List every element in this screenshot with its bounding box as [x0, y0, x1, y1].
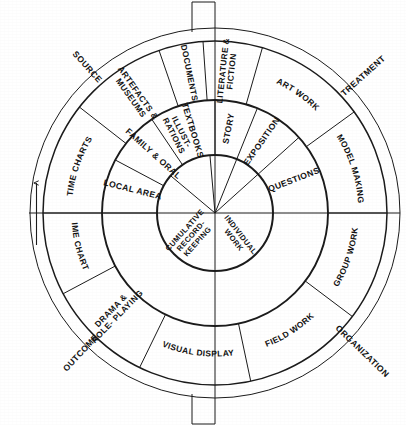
wheel-labels: TIME CHARTSARTEFACTS &MUSEUMSDOCUMENTSLI… [0, 0, 391, 379]
inner-divider-1 [210, 155, 215, 213]
axis-label-organization: ORGANIZATION [334, 323, 392, 379]
divider-literature-fiction [203, 41, 207, 100]
middle-label-exposition: EXPOSITION [241, 115, 282, 167]
inner-label-cumulative-record-keeping: CUMULATIVERECORD-KEEPING [164, 207, 219, 264]
divider-documents [159, 50, 178, 106]
inner-divider-3 [215, 174, 258, 213]
divider-drama-role-playing [140, 315, 166, 368]
wheel-svg: TIME CHARTSARTEFACTS &MUSEUMSDOCUMENTSLI… [0, 0, 406, 425]
outer-label-documents: DOCUMENTS [179, 44, 200, 102]
inner-divider-0 [171, 176, 215, 213]
outer-label-art-work: ART WORK [275, 76, 322, 113]
curriculum-wheel-diagram: TIME CHARTSARTEFACTS &MUSEUMSDOCUMENTSLI… [0, 0, 406, 425]
divider-visual-display [238, 324, 250, 382]
divider-time-charts-lower [63, 266, 115, 294]
inner-divider-2 [215, 159, 237, 213]
outer-label-time-charts-lower: TIME CHARTS [0, 0, 91, 272]
outer-label-literature-fiction: LITERATURE &FICTION [214, 37, 239, 104]
inner-label-individual-work: INDIVIDUALWORK [216, 213, 259, 261]
axis-label-treatment: TREATMENT [339, 53, 388, 98]
middle-label-story: STORY [220, 112, 236, 144]
divider-field-work [305, 281, 352, 317]
outer-label-artefacts-museums: ARTEFACTS &MUSEUMS [109, 64, 161, 126]
middle-label-questions: QUESTIONS [267, 165, 321, 194]
outer-label-field-work: FIELD WORK [264, 310, 316, 348]
outer-label-group-work: GROUP WORK [331, 227, 360, 289]
outer-label-visual-display: VISUAL DISPLAY [161, 339, 235, 359]
outer-label-model-making: MODEL MAKING [335, 132, 367, 203]
outer-label-time-charts-upper: TIME CHARTS [65, 134, 95, 196]
divider-art-work [246, 48, 262, 105]
